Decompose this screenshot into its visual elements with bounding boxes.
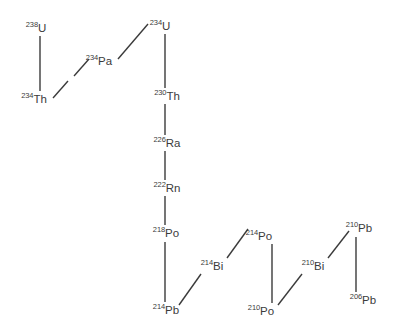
nuclide-label-po214: 214Po	[246, 231, 272, 242]
decay-link-layer	[0, 0, 393, 329]
element-symbol: U	[38, 22, 46, 34]
nuclide-label-bi214: 214Bi	[201, 261, 223, 272]
element-symbol: Bi	[213, 260, 223, 272]
decay-link-bi210-pb210	[328, 231, 349, 258]
mass-number: 214	[246, 228, 258, 237]
mass-number: 234	[21, 91, 33, 100]
mass-number: 222	[154, 180, 166, 189]
nuclide-label-u234: 234U	[150, 21, 171, 32]
nuclide-label-bi210: 210Bi	[302, 261, 324, 272]
element-symbol: U	[162, 20, 170, 32]
element-symbol: Rn	[166, 182, 181, 194]
nuclide-label-th230: 230Th	[154, 91, 180, 102]
element-symbol: Pa	[98, 55, 112, 67]
nuclide-label-ra226: 226Ra	[154, 138, 181, 149]
nuclide-label-po210: 210Po	[248, 306, 274, 317]
nuclide-label-pb210: 210Pb	[346, 223, 372, 234]
mass-number: 214	[153, 302, 165, 311]
mass-number: 206	[350, 292, 362, 301]
decay-link-pb214-bi214	[179, 274, 201, 305]
mass-number: 234	[86, 53, 98, 62]
nuclide-label-pa234: 234Pa	[86, 56, 112, 67]
mass-number: 230	[154, 88, 166, 97]
nuclide-label-rn222: 222Rn	[154, 183, 181, 194]
nuclide-label-th234: 234Th	[21, 94, 47, 105]
nuclide-label-pb206: 206Pb	[350, 295, 376, 306]
element-symbol: Bi	[314, 260, 324, 272]
decay-chain-diagram: 238U234Th234Pa234U230Th226Ra222Rn218Po21…	[0, 0, 393, 329]
mass-number: 226	[154, 135, 166, 144]
mass-number: 214	[201, 258, 213, 267]
decay-link-bi214-po214	[227, 229, 248, 258]
decay-link-th234-pa234a	[53, 81, 68, 98]
element-symbol: Po	[258, 230, 272, 242]
element-symbol: Pb	[362, 294, 376, 306]
mass-number: 238	[26, 20, 38, 29]
mass-number: 210	[302, 258, 314, 267]
mass-number: 210	[346, 220, 358, 229]
element-symbol: Po	[260, 305, 274, 317]
decay-link-pa234-u234	[118, 24, 148, 59]
nuclide-label-po218: 218Po	[153, 228, 179, 239]
element-symbol: Pb	[358, 222, 372, 234]
element-symbol: Pb	[165, 304, 179, 316]
decay-link-po210-bi210	[278, 274, 302, 305]
element-symbol: Th	[33, 93, 46, 105]
mass-number: 218	[153, 225, 165, 234]
nuclide-label-u238: 238U	[26, 23, 47, 34]
mass-number: 210	[248, 303, 260, 312]
element-symbol: Po	[165, 227, 179, 239]
nuclide-label-pb214: 214Pb	[153, 305, 179, 316]
mass-number: 234	[150, 18, 162, 27]
element-symbol: Ra	[166, 137, 181, 149]
element-symbol: Th	[166, 90, 179, 102]
